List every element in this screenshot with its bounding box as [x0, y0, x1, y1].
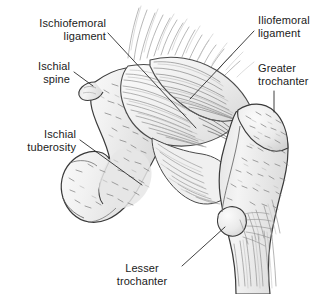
anatomy-figure: Ischiofemoral ligament Ischial spine Isc… [0, 0, 320, 294]
label-lesser-trochanter: Lesser trochanter [104, 262, 180, 287]
leader-ischial-spine [74, 72, 93, 86]
label-ischial-spine: Ischial spine [8, 60, 70, 85]
label-ischiofemoral-ligament: Ischiofemoral ligament [14, 17, 106, 42]
femur [217, 104, 288, 294]
leader-lesser-trochanter [182, 227, 225, 266]
label-greater-trochanter: Greater trochanter [258, 62, 320, 87]
label-ischial-tuberosity: Ischial tuberosity [4, 128, 76, 153]
label-iliofemoral-ligament: Iliofemoral ligament [258, 14, 320, 39]
